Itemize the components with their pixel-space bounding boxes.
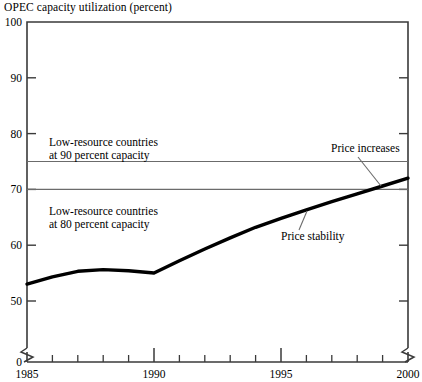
y-tick-label-50: 50 [11,295,23,307]
x-tick-label-1990: 1990 [143,368,166,380]
x-tick-label-1985: 1985 [16,368,39,380]
data-series-line [27,178,408,284]
axis-break-right-icon [402,348,414,362]
y-tick-label-0: 0 [16,356,22,368]
axis-break-left-icon [21,348,33,362]
x-tick-label-2000: 2000 [397,368,420,380]
annotation-price-increases-label: Price increases [331,142,400,154]
chart-plot-area: 100 90 80 70 60 50 0 1985 1990 [0,0,422,382]
reference-label-90-line1: Low-resource countries [49,136,158,148]
reference-label-90-line2: at 90 percent capacity [49,149,150,162]
y-tick-label-60: 60 [11,239,23,251]
reference-label-80-line1: Low-resource countries [49,205,158,217]
chart-container: OPEC capacity utilization (percent) [0,0,422,382]
annotation-price-stability-label: Price stability [281,230,345,243]
y-tick-label-100: 100 [5,16,23,28]
y-tick-label-90: 90 [11,72,23,84]
y-tick-label-80: 80 [11,128,23,140]
reference-label-80-line2: at 80 percent capacity [49,218,150,231]
plot-frame [27,22,408,348]
x-tick-label-1995: 1995 [270,368,293,380]
y-tick-label-70: 70 [11,183,23,195]
x-axis-minor-ticks [52,355,382,362]
x-axis-major-ticks [154,348,281,362]
annotation-price-stability-leader [299,211,307,230]
